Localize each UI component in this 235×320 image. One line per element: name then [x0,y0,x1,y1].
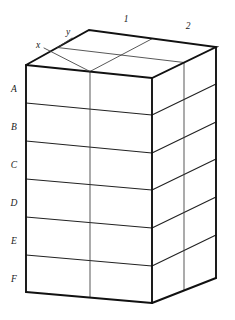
row-label-E: E [10,236,17,246]
axis-label-y: y [65,27,71,37]
row-label-C: C [11,160,18,170]
row-labels: A B C D E F [10,84,18,284]
row-label-F: F [10,274,17,284]
column-label-2: 2 [186,21,191,31]
figure-canvas: A B C D E F 1 2 x y [0,0,235,320]
column-label-1: 1 [124,14,129,24]
row-label-A: A [10,84,17,94]
column-labels: 1 2 [124,14,191,31]
row-label-B: B [11,122,17,132]
face-fills [26,30,216,303]
axis-label-x: x [35,40,41,50]
row-label-D: D [10,198,18,208]
cuboid-array-diagram: A B C D E F 1 2 x y [0,0,235,320]
